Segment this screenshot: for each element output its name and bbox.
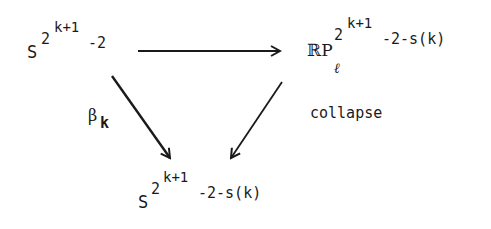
edge-label-collapse: collapse bbox=[310, 104, 382, 122]
node-exp-tail: -2-s(k) bbox=[198, 184, 261, 202]
beta-subscript: k bbox=[100, 114, 109, 132]
node-base: S bbox=[138, 192, 148, 212]
node-subscript: ℓ bbox=[334, 60, 340, 77]
beta-symbol: β bbox=[88, 106, 97, 125]
node-exp-tail: -2 bbox=[88, 34, 106, 52]
arrow-collapse-diagonal bbox=[231, 82, 282, 158]
node-exp-base: 2 bbox=[41, 30, 50, 48]
node-exp-exp: k+1 bbox=[163, 169, 188, 185]
node-base: ℝP bbox=[307, 40, 333, 60]
node-exp-base: 2 bbox=[334, 26, 343, 44]
arrow-beta-diagonal bbox=[112, 76, 170, 158]
node-exp-tail: -2-s(k) bbox=[382, 30, 445, 48]
node-exp-exp: k+1 bbox=[347, 15, 372, 31]
node-exp-base: 2 bbox=[151, 180, 160, 198]
node-base: S bbox=[27, 42, 37, 62]
node-exp-exp: k+1 bbox=[54, 19, 79, 35]
